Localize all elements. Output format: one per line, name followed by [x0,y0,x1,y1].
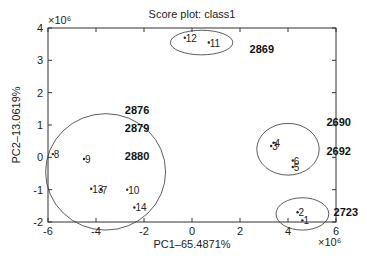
y-tick-label: -2 [33,216,43,228]
x-exponent: ×10⁶ [318,236,341,248]
y-exponent: ×10⁶ [48,14,71,26]
point-label: 12 [186,33,198,44]
x-tick-label: 2 [237,225,243,237]
cluster-annotation: 2690 [326,116,350,128]
y-tick-label: 0 [37,151,43,163]
y-tick-label: 3 [37,54,43,66]
point-label: 14 [135,202,147,213]
y-tick-label: 2 [37,87,43,99]
point-label: 11 [210,38,221,49]
cluster-annotation: 2876 [125,104,149,116]
x-tick-label: -4 [91,225,101,237]
cluster-ellipse [257,123,319,175]
y-tick-label: 4 [37,22,43,34]
point-label: 4 [275,138,281,149]
y-axis-label: PC2–13.0619% [10,86,22,163]
point-label: 9 [85,154,91,165]
point-label: 6 [294,156,300,167]
point-label: 10 [128,185,140,196]
x-tick-label: -2 [139,225,149,237]
cluster-annotation: 2869 [250,43,274,55]
x-tick-label: -6 [43,225,53,237]
y-tick-label: -1 [33,184,43,196]
cluster-annotation: 2723 [334,206,358,218]
cluster-ellipses [46,30,329,230]
chart-title: Score plot: class1 [149,8,236,20]
point-label: 1 [303,215,309,226]
cluster-annotation: 2879 [125,122,149,134]
score-plot: -6-4-20246-2-101234 1234567891011121314 … [0,0,367,265]
x-axis-label: PC1–65.4871% [153,238,230,250]
plot-frame [48,28,336,222]
y-tick-label: 1 [37,119,43,131]
point-label: 2 [299,207,305,218]
cluster-annotation: 2880 [125,150,149,162]
point-label: 13 [92,184,104,195]
point-label: 8 [54,149,60,160]
cluster-ellipse [170,30,232,55]
x-tick-label: 0 [189,225,195,237]
cluster-annotations: 2869287628792880269026922723 [125,43,358,218]
cluster-annotation: 2692 [326,145,350,157]
axis-ticks: -6-4-20246-2-101234 [33,22,339,237]
data-points: 1234567891011121314 [52,33,310,227]
